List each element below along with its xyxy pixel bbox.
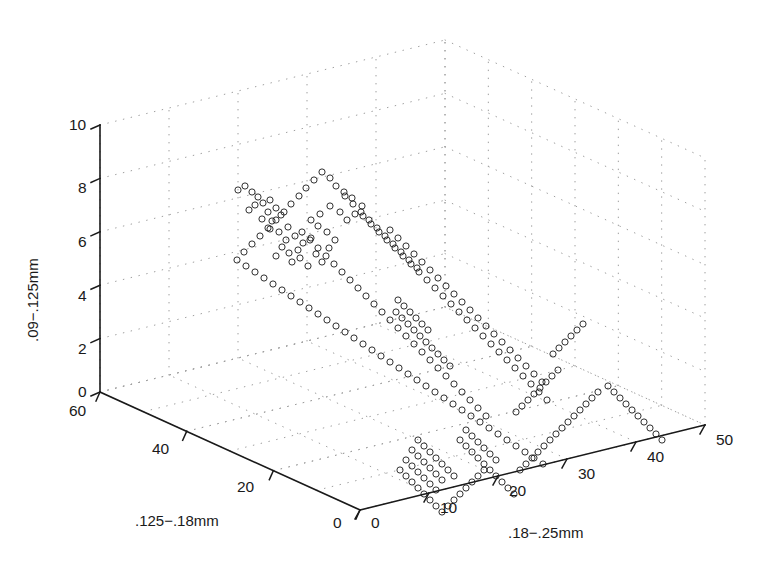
data-point xyxy=(480,333,486,339)
data-point xyxy=(433,471,439,477)
data-point xyxy=(395,325,401,331)
data-point xyxy=(559,425,565,431)
data-point xyxy=(464,317,470,323)
data-point xyxy=(475,455,481,461)
data-point xyxy=(463,443,469,449)
data-point xyxy=(246,207,252,213)
z-tick-label-8: 8 xyxy=(78,179,87,197)
x-tick-label-20: 20 xyxy=(237,478,254,496)
data-point xyxy=(451,291,457,297)
data-point xyxy=(337,209,343,215)
data-point xyxy=(443,283,449,289)
data-point xyxy=(295,247,301,253)
data-point xyxy=(296,193,302,199)
data-point xyxy=(589,395,595,401)
data-point xyxy=(369,347,375,353)
y-axis-title: .18−.25mm xyxy=(508,524,583,541)
data-point xyxy=(403,243,409,249)
data-point xyxy=(467,397,473,403)
data-point xyxy=(292,233,298,239)
data-point xyxy=(411,341,417,347)
data-point xyxy=(308,217,314,223)
data-point xyxy=(273,253,279,259)
data-point xyxy=(355,285,361,291)
data-point xyxy=(411,251,417,257)
data-point xyxy=(349,195,355,201)
data-point xyxy=(351,335,357,341)
data-point xyxy=(276,229,282,235)
data-point xyxy=(549,373,555,379)
data-point xyxy=(242,183,248,189)
data-point xyxy=(395,235,401,241)
x-axis-spine xyxy=(100,392,360,510)
data-point xyxy=(550,351,556,357)
data-point xyxy=(635,413,641,419)
data-point xyxy=(395,297,401,303)
data-point xyxy=(432,389,438,395)
data-point xyxy=(513,443,519,449)
data-point xyxy=(234,257,240,263)
data-point xyxy=(504,357,510,363)
data-point xyxy=(270,281,276,287)
data-point xyxy=(288,293,294,299)
data-point xyxy=(363,293,369,299)
data-point xyxy=(327,175,333,181)
data-point xyxy=(419,321,425,327)
data-point xyxy=(486,425,492,431)
data-point xyxy=(417,333,423,339)
plot-canvas xyxy=(0,0,771,571)
data-point xyxy=(477,419,483,425)
data-point xyxy=(415,469,421,475)
data-point xyxy=(405,371,411,377)
data-point xyxy=(472,325,478,331)
data-point xyxy=(252,202,258,208)
data-point xyxy=(528,381,534,387)
data-point xyxy=(451,473,457,479)
data-point xyxy=(359,203,365,209)
y-tick-label-50: 50 xyxy=(716,431,733,449)
data-point xyxy=(342,329,348,335)
z-tick-label-10: 10 xyxy=(69,116,86,134)
data-point xyxy=(403,457,409,463)
data-point xyxy=(409,447,415,453)
data-point xyxy=(445,467,451,473)
data-point xyxy=(341,189,347,195)
data-point xyxy=(421,443,427,449)
y-tick-label-40: 40 xyxy=(647,448,664,466)
data-point xyxy=(315,245,321,251)
data-point xyxy=(397,467,403,473)
data-point xyxy=(352,211,358,217)
data-point xyxy=(475,439,481,445)
data-point xyxy=(315,311,321,317)
data-point xyxy=(475,473,481,479)
data-point xyxy=(459,407,465,413)
data-point xyxy=(249,241,255,247)
data-point xyxy=(347,277,353,283)
data-point xyxy=(315,223,321,229)
data-point xyxy=(439,461,445,467)
data-point xyxy=(441,395,447,401)
data-point xyxy=(409,463,415,469)
data-point xyxy=(611,389,617,395)
z-tick-label-6: 6 xyxy=(78,233,87,251)
data-point xyxy=(495,431,501,437)
data-point xyxy=(324,229,330,235)
data-point xyxy=(379,309,385,315)
data-point xyxy=(311,177,317,183)
data-point xyxy=(577,407,583,413)
data-point xyxy=(513,409,519,415)
data-point xyxy=(339,269,345,275)
data-point xyxy=(493,457,499,463)
data-point xyxy=(421,475,427,481)
grid-lines xyxy=(100,40,705,510)
y-axis-spine xyxy=(360,425,705,510)
data-point xyxy=(487,451,493,457)
data-point xyxy=(326,245,332,251)
data-point xyxy=(405,321,411,327)
data-point xyxy=(307,237,313,243)
data-point xyxy=(475,405,481,411)
data-point xyxy=(562,339,568,345)
data-point xyxy=(522,449,528,455)
data-point xyxy=(499,479,505,485)
data-point xyxy=(265,209,271,215)
